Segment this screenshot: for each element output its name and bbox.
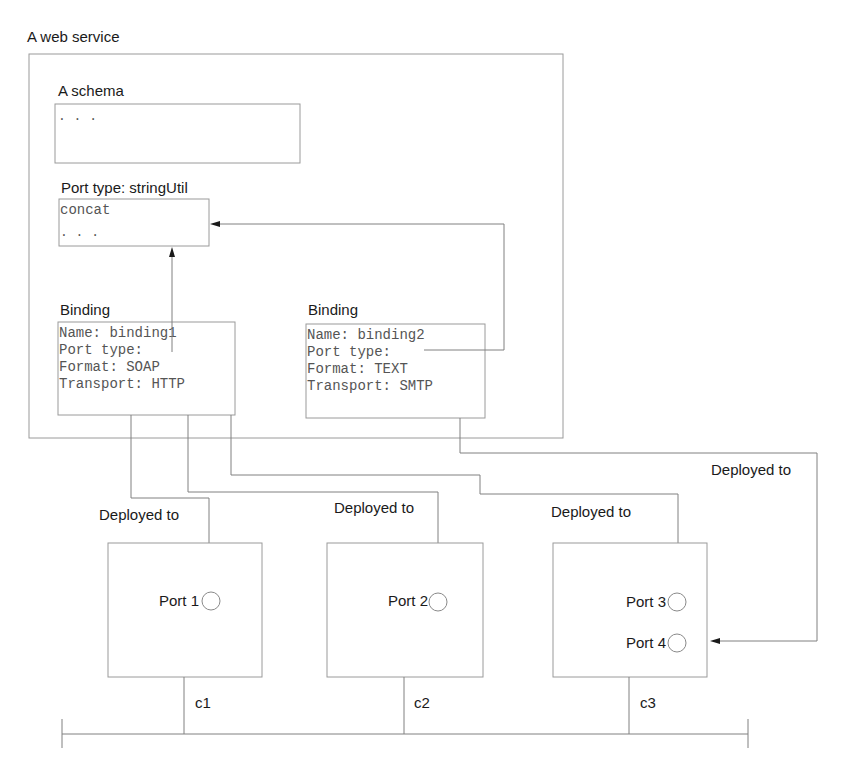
port1-circle-icon [202, 592, 220, 610]
binding1-port-type: Port type: [59, 342, 143, 358]
port4-label: Port 4 [626, 634, 666, 651]
port-type-title: Port type: stringUtil [61, 179, 188, 196]
binding1-name: Name: binding1 [59, 325, 177, 341]
container-c2-box [327, 543, 483, 677]
binding2-title: Binding [308, 301, 358, 318]
binding2-transport: Transport: SMTP [307, 378, 433, 394]
port-type-line-0: concat [60, 202, 110, 218]
schema-title: A schema [58, 82, 125, 99]
port3-circle-icon [668, 593, 686, 611]
container-c1: Port 1 c1 [108, 543, 262, 734]
binding2-port-type: Port type: [307, 344, 391, 360]
port-type-line-1: . . . [60, 225, 99, 240]
binding1-title: Binding [60, 301, 110, 318]
port3-label: Port 3 [626, 593, 666, 610]
web-service-title: A web service [27, 28, 120, 45]
deploy-label-3: Deployed to [551, 503, 631, 520]
container-c1-box [108, 543, 262, 677]
container-c2: Port 2 c2 [327, 543, 483, 734]
port1-label: Port 1 [159, 592, 199, 609]
binding2-name: Name: binding2 [307, 327, 425, 343]
port4-circle-icon [668, 634, 686, 652]
container-c3-box [553, 543, 707, 677]
network-bus [62, 719, 748, 748]
binding2-format: Format: TEXT [307, 361, 408, 377]
container-c2-label: c2 [414, 694, 430, 711]
deploy-label-4: Deployed to [711, 461, 791, 478]
binding1-transport: Transport: HTTP [59, 376, 185, 392]
binding1-format: Format: SOAP [59, 359, 160, 375]
port2-label: Port 2 [388, 592, 428, 609]
container-c3-label: c3 [640, 694, 656, 711]
web-service-diagram: A web service A schema . . . Port type: … [0, 0, 841, 771]
deploy-label-2: Deployed to [334, 499, 414, 516]
arrow-head-icon [710, 638, 720, 644]
deploy-label-1: Deployed to [99, 506, 179, 523]
port2-circle-icon [429, 593, 447, 611]
schema-content: . . . [58, 109, 97, 124]
container-c1-label: c1 [195, 694, 211, 711]
container-c3: Port 3 Port 4 c3 [553, 543, 707, 734]
